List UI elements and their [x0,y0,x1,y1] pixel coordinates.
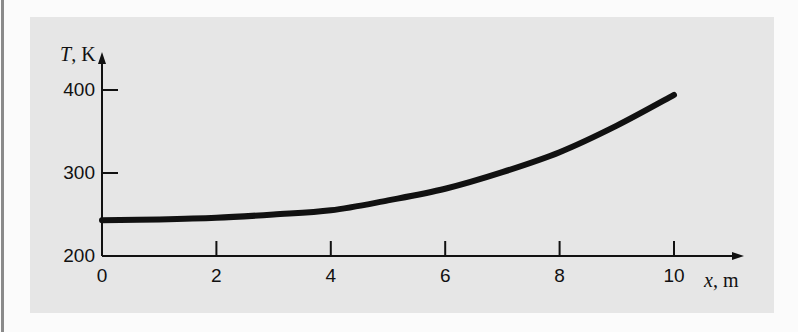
y-tick-label: 400 [63,80,95,99]
x-tick-label: 10 [663,266,684,285]
y-axis-variable: T [60,43,71,65]
y-tick-label: 200 [63,246,95,265]
x-tick-label: 6 [440,266,451,285]
x-tick-label: 0 [97,266,108,285]
x-tick-label: 4 [326,266,337,285]
temperature-curve [102,95,674,220]
y-axis-title: T, K [60,44,96,64]
y-axis-unit: , K [71,43,95,65]
x-axis-unit: , m [713,269,739,291]
axes [98,52,744,260]
y-axis-arrow-icon [98,52,106,64]
x-axis-variable: x [704,269,713,291]
x-axis-title: x, m [704,270,738,290]
x-tick-label: 2 [211,266,222,285]
y-tick-label: 300 [63,163,95,182]
x-tick-label: 8 [554,266,565,285]
x-axis-arrow-icon [732,252,744,260]
